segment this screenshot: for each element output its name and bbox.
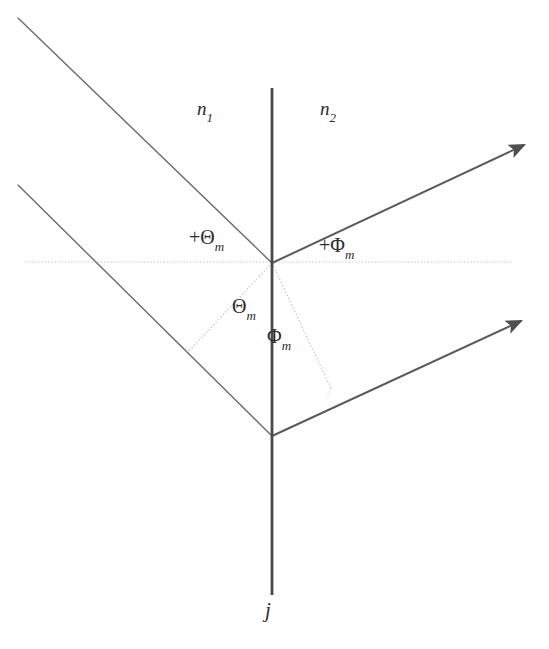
current-axis-label-j-base: j	[265, 598, 271, 622]
angle-label-theta-m-subscript: m	[246, 308, 255, 323]
medium-label-n1-subscript: 1	[207, 110, 214, 125]
angle-label-plus-theta-m: +Θm	[189, 226, 224, 252]
angle-label-plus-theta-m-sign: +	[189, 226, 200, 248]
angle-label-plus-theta-m-subscript: m	[215, 239, 224, 254]
medium-label-n2-base: n	[320, 98, 330, 119]
medium-label-n2: n2	[320, 98, 336, 123]
theta-angle-guide-line	[189, 263, 272, 351]
angle-label-phi-m-symbol: Φ	[267, 325, 282, 347]
angle-label-phi-m-subscript: m	[282, 338, 291, 353]
angle-label-theta-m-symbol: Θ	[232, 295, 246, 317]
angle-label-phi-m: Φm	[267, 325, 291, 351]
medium-label-n1-base: n	[197, 98, 207, 119]
phi-angle-arc	[326, 388, 331, 399]
angle-label-plus-theta-m-symbol: Θ	[200, 226, 214, 248]
refracted-ray-lower	[272, 321, 521, 436]
angle-label-plus-phi-m-sign: +	[319, 234, 330, 256]
incident-ray-upper	[18, 18, 272, 263]
current-axis-label-j: j	[265, 598, 271, 623]
medium-label-n1: n1	[197, 98, 213, 123]
angle-label-plus-phi-m-symbol: Φ	[330, 234, 345, 256]
refracted-ray-upper	[272, 145, 524, 263]
angle-label-plus-phi-m: +Φm	[319, 234, 354, 260]
angle-label-plus-phi-m-subscript: m	[345, 247, 354, 262]
refraction-diagram: n1 n2 +Θm +Φm Θm Φm j	[0, 0, 549, 649]
medium-label-n2-subscript: 2	[330, 110, 337, 125]
angle-label-theta-m: Θm	[232, 295, 256, 321]
